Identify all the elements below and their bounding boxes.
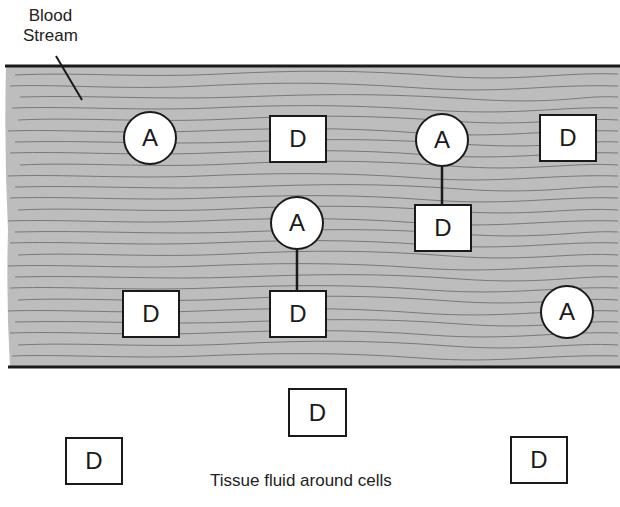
blood-stream-label-line1: Blood — [23, 6, 78, 26]
tissue-fluid-label: Tissue fluid around cells — [210, 471, 392, 491]
molecule-d: D — [539, 114, 597, 162]
molecule-d-tissue: D — [510, 436, 568, 484]
molecule-a: A — [540, 285, 594, 339]
molecule-a-bound: A — [415, 113, 469, 167]
molecule-d-bound: D — [269, 290, 327, 338]
blood-stream-label: Blood Stream — [23, 6, 78, 45]
molecule-d-tissue: D — [65, 437, 123, 485]
molecule-a: A — [123, 111, 177, 165]
molecule-a-bound: A — [270, 196, 324, 250]
blood-stream-label-line2: Stream — [23, 26, 78, 46]
molecule-d-tissue: D — [288, 388, 347, 437]
molecule-d-bound: D — [414, 204, 472, 252]
molecule-d: D — [122, 290, 180, 338]
molecule-d: D — [269, 115, 327, 163]
